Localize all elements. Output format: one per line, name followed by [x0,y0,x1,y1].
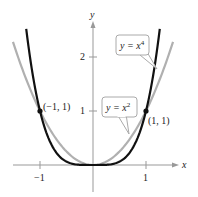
chart: y x −1 1 1 2 (−1, 1) (1, 1) y = x4 y = x… [0,0,198,197]
callout-x2-text: y = x [105,102,127,113]
point-label-1-1: (1, 1) [148,115,170,127]
x-tick-label-1: 1 [143,172,148,183]
point-neg1-1 [37,108,42,113]
y-axis-label: y [89,9,95,20]
point-1-1 [143,108,148,113]
y-tick-label-1: 1 [80,105,85,116]
callout-y-x2: y = x2 [102,97,137,134]
y-axis-arrow-icon [91,21,96,28]
callout-x2-exp: 2 [127,101,131,109]
callout-y-x4: y = x4 [116,35,157,69]
point-label-neg1-1: (−1, 1) [43,101,70,113]
callout-x4-exp: 4 [141,39,145,47]
x-axis-arrow-icon [172,163,179,168]
x-axis-label: x [181,159,187,170]
callout-x4-text: y = x [119,40,141,51]
x-tick-label-neg1: −1 [34,172,45,183]
y-tick-label-2: 2 [80,51,85,62]
